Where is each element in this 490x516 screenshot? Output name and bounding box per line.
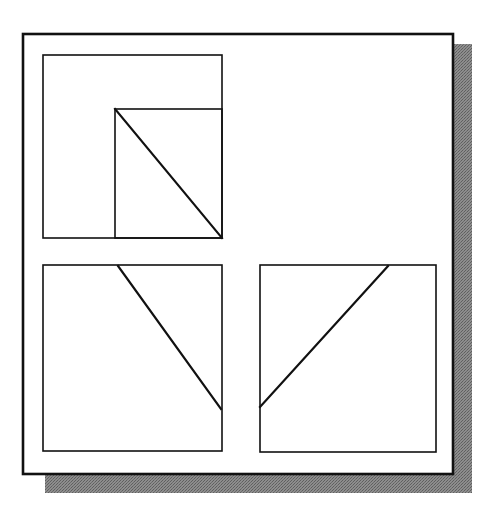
figure-canvas xyxy=(0,0,490,516)
panel-top-left-group xyxy=(43,55,222,238)
panel-bottom-left xyxy=(43,265,222,451)
panel-top-left xyxy=(43,55,222,238)
panel-bottom-right-group xyxy=(260,265,436,452)
panel-bottom-right xyxy=(260,265,436,452)
panel-bottom-left-group xyxy=(43,265,222,451)
figure-container xyxy=(0,0,490,516)
